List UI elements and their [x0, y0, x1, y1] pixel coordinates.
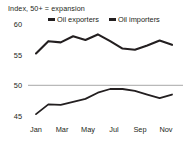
line-series-oil-exporters — [36, 34, 172, 53]
chart-container: Index, 50+ = expansion Oil exporters Oil… — [0, 0, 183, 142]
line-series-oil-importers — [36, 89, 172, 114]
chart-plot-area — [0, 0, 183, 142]
